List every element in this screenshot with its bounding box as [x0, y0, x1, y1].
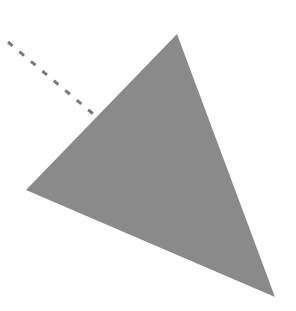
dashed-line [8, 42, 98, 118]
diagram-canvas [0, 0, 296, 311]
triangle-shape [26, 34, 275, 297]
